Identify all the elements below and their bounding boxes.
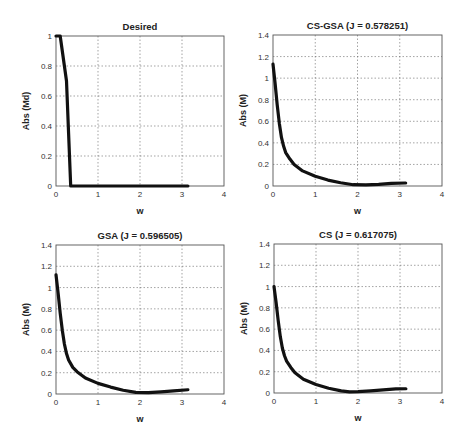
subplot-desired: 0123400.20.40.60.81DesiredwAbs (Md) xyxy=(21,21,227,216)
x-axis-label: w xyxy=(353,413,362,423)
x-tick-label: 0 xyxy=(54,398,59,407)
y-axis-label: Abs (M) xyxy=(239,302,249,335)
x-tick-label: 0 xyxy=(54,190,59,199)
y-tick-label: 0.4 xyxy=(41,122,53,131)
y-tick-label: 0 xyxy=(48,182,53,191)
y-tick-label: 0.8 xyxy=(258,96,270,105)
x-tick-label: 0 xyxy=(272,397,277,406)
y-tick-label: 0.8 xyxy=(41,62,53,71)
y-tick-label: 0.4 xyxy=(259,346,271,355)
x-tick-label: 3 xyxy=(180,190,185,199)
series-line-md xyxy=(56,36,188,186)
y-tick-label: 1.2 xyxy=(41,262,53,271)
y-tick-label: 1 xyxy=(48,284,53,293)
y-tick-label: 1 xyxy=(265,74,270,83)
y-tick-label: 0.2 xyxy=(41,369,53,378)
y-tick-label: 1.4 xyxy=(258,31,270,40)
x-tick-label: 2 xyxy=(138,190,143,199)
x-tick-label: 4 xyxy=(222,190,227,199)
x-axis-label: w xyxy=(135,414,144,424)
x-tick-label: 2 xyxy=(356,397,361,406)
x-tick-label: 1 xyxy=(96,398,101,407)
y-tick-label: 0.6 xyxy=(41,326,53,335)
y-tick-label: 0.8 xyxy=(41,305,53,314)
x-tick-label: 4 xyxy=(440,190,445,199)
y-tick-label: 1.4 xyxy=(259,240,271,249)
subplot-cs-gsa: 0123400.20.40.60.811.21.4CS-GSA (J = 0.5… xyxy=(238,20,445,216)
y-tick-label: 1.2 xyxy=(259,261,271,270)
y-axis-label: Abs (Md) xyxy=(21,92,31,131)
chart-title: GSA (J = 0.596505) xyxy=(98,230,183,241)
y-tick-label: 0 xyxy=(266,389,271,398)
series-line-m xyxy=(56,275,188,393)
x-tick-label: 2 xyxy=(355,190,360,199)
y-tick-label: 0.6 xyxy=(41,92,53,101)
y-tick-label: 0 xyxy=(48,390,53,399)
y-tick-label: 0.2 xyxy=(259,368,271,377)
figure: 0123400.20.40.60.81DesiredwAbs (Md)01234… xyxy=(0,0,465,436)
subplot-gsa: 0123400.20.40.60.811.21.4GSA (J = 0.5965… xyxy=(21,230,227,424)
x-tick-label: 4 xyxy=(440,397,445,406)
y-tick-label: 1 xyxy=(266,283,271,292)
x-tick-label: 3 xyxy=(398,190,403,199)
chart-title: CS-GSA (J = 0.578251) xyxy=(307,20,408,31)
y-tick-label: 0.6 xyxy=(259,325,271,334)
x-tick-label: 1 xyxy=(313,190,318,199)
y-tick-label: 0.4 xyxy=(41,347,53,356)
x-tick-label: 4 xyxy=(222,398,227,407)
y-tick-label: 0.2 xyxy=(258,160,270,169)
x-tick-label: 2 xyxy=(138,398,143,407)
y-tick-label: 0.2 xyxy=(41,152,53,161)
y-tick-label: 0.4 xyxy=(258,139,270,148)
x-tick-label: 3 xyxy=(398,397,403,406)
y-axis-label: Abs (M) xyxy=(21,303,31,336)
x-tick-label: 0 xyxy=(271,190,276,199)
x-tick-label: 1 xyxy=(314,397,319,406)
x-tick-label: 1 xyxy=(96,190,101,199)
x-axis-label: w xyxy=(135,206,144,216)
y-tick-label: 1.2 xyxy=(258,53,270,62)
series-line-m xyxy=(273,64,406,185)
y-axis-label: Abs (M) xyxy=(238,94,248,127)
axes-frame xyxy=(273,35,442,186)
subplot-cs: 0123400.20.40.60.811.21.4CS (J = 0.61707… xyxy=(239,229,445,423)
y-tick-label: 0 xyxy=(265,182,270,191)
series-line-m xyxy=(274,287,406,392)
y-tick-label: 0.6 xyxy=(258,117,270,126)
x-tick-label: 3 xyxy=(180,398,185,407)
x-axis-label: w xyxy=(353,206,362,216)
y-tick-label: 0.8 xyxy=(259,304,271,313)
y-tick-label: 1.4 xyxy=(41,241,53,250)
chart-title: Desired xyxy=(123,21,158,32)
y-tick-label: 1 xyxy=(48,32,53,41)
chart-title: CS (J = 0.617075) xyxy=(319,229,397,240)
